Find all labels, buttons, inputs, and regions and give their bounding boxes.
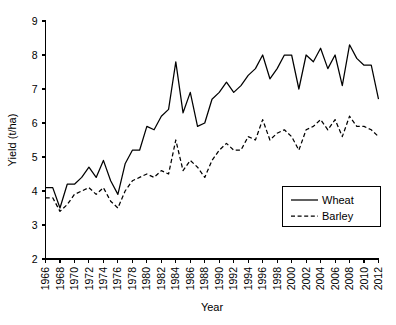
x-axis: 1966196819701972197419761978198019821984… xyxy=(39,259,384,290)
chart-legend: WheatBarley xyxy=(282,186,380,226)
y-tick-label: 3 xyxy=(32,219,38,231)
y-tick-label: 7 xyxy=(32,83,38,95)
x-tick-label: 1996 xyxy=(256,267,268,291)
legend-label-wheat: Wheat xyxy=(322,194,354,206)
x-tick-label: 1970 xyxy=(68,267,80,291)
y-tick-label: 8 xyxy=(32,49,38,61)
yield-line-chart: 23456789 1966196819701972197419761978198… xyxy=(0,0,396,325)
y-tick-label: 5 xyxy=(32,151,38,163)
x-tick-label: 1966 xyxy=(39,267,51,291)
x-tick-label: 1974 xyxy=(97,267,109,291)
x-axis-title: Year xyxy=(201,301,224,313)
x-tick-label: 1998 xyxy=(271,267,283,291)
x-tick-label: 2008 xyxy=(343,267,355,291)
x-tick-label: 1980 xyxy=(140,267,152,291)
y-axis: 23456789 xyxy=(32,15,46,265)
x-tick-label: 1972 xyxy=(83,267,95,291)
x-tick-label: 1982 xyxy=(155,267,167,291)
x-tick-label: 1990 xyxy=(213,267,225,291)
legend-label-barley: Barley xyxy=(322,210,354,222)
x-tick-label: 2012 xyxy=(372,267,384,291)
x-tick-label: 1968 xyxy=(54,267,66,291)
y-tick-label: 4 xyxy=(32,185,38,197)
x-tick-label: 1978 xyxy=(126,267,138,291)
x-tick-label: 2010 xyxy=(358,267,370,291)
x-tick-label: 1994 xyxy=(242,267,254,291)
chart-canvas: 23456789 1966196819701972197419761978198… xyxy=(0,0,396,325)
y-tick-label: 9 xyxy=(32,15,38,27)
x-tick-label: 2004 xyxy=(314,267,326,291)
x-tick-label: 2000 xyxy=(285,267,297,291)
x-tick-label: 1986 xyxy=(184,267,196,291)
y-tick-label: 2 xyxy=(32,253,38,265)
x-tick-label: 2006 xyxy=(329,267,341,291)
x-tick-label: 2002 xyxy=(300,267,312,291)
series-line-wheat xyxy=(46,45,379,208)
x-tick-label: 1988 xyxy=(198,267,210,291)
x-tick-label: 1984 xyxy=(169,267,181,291)
x-tick-label: 1992 xyxy=(227,267,239,291)
x-tick-label: 1976 xyxy=(111,267,123,291)
y-axis-title: Yield (t/ha) xyxy=(6,114,18,167)
y-tick-label: 6 xyxy=(32,117,38,129)
